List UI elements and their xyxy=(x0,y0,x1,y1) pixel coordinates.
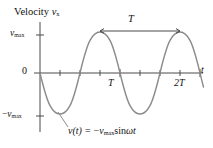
equation-annotation: v(t) = −vmaxsinωt xyxy=(68,126,136,137)
neg-vmax-subscript: max xyxy=(12,113,22,119)
y-tick-label-vmax: vmax xyxy=(10,29,24,39)
y-axis-title-text: Velocity xyxy=(14,6,49,17)
origin-label: 0 xyxy=(22,66,27,76)
x-tick-label-T: T xyxy=(108,78,114,88)
x-tick-label-2T: 2T xyxy=(174,78,185,88)
period-span-arrow xyxy=(100,29,180,34)
x-axis-label: t xyxy=(201,65,204,75)
equation-equals: = xyxy=(85,125,91,136)
equation-amplitude-subscript: max xyxy=(104,129,115,136)
equation-omega: ω xyxy=(126,125,133,136)
y-axis-title: Velocity vx xyxy=(14,7,60,18)
y-axis-title-subscript: x xyxy=(56,10,59,17)
period-annotation-label: T xyxy=(128,14,134,25)
equation-leader-line xyxy=(58,112,68,127)
y-tick-label-neg-vmax: −vmax xyxy=(2,110,22,120)
vmax-subscript: max xyxy=(14,32,24,38)
equation-time: t xyxy=(133,125,136,136)
equation-lhs: v(t) xyxy=(68,125,82,136)
velocity-time-figure: Velocity vx vmax −vmax 0 t T T 2T v(t) =… xyxy=(0,0,213,148)
equation-sin: sin xyxy=(114,125,126,136)
